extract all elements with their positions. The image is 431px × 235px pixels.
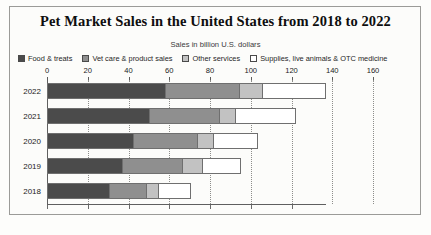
bar-row[interactable]: 2020 xyxy=(47,133,258,149)
y-axis-category-label: 2020 xyxy=(23,137,41,146)
legend-item-label: Other services xyxy=(192,54,240,63)
y-axis-category-label: 2021 xyxy=(23,112,41,121)
x-tick-label: 20 xyxy=(84,66,92,75)
bar-segment[interactable] xyxy=(235,108,296,124)
y-axis-category-label: 2019 xyxy=(23,162,41,171)
x-tick-label: 160 xyxy=(367,66,380,75)
x-axis-bottom-tick xyxy=(169,205,170,209)
legend-swatch-icon xyxy=(250,55,257,62)
bar-segment[interactable] xyxy=(158,183,191,199)
chart-page: Pet Market Sales in the United States fr… xyxy=(0,0,431,235)
bar-row[interactable]: 2021 xyxy=(47,108,296,124)
bar-segment[interactable] xyxy=(182,158,202,174)
gridline xyxy=(373,80,374,204)
x-axis-bottom-tick xyxy=(251,205,252,209)
x-tick-label: 140 xyxy=(326,66,339,75)
x-axis-bottom-tick xyxy=(292,205,293,209)
legend-swatch-icon xyxy=(182,55,189,62)
x-tick-label: 120 xyxy=(285,66,298,75)
x-axis-bottom-tick xyxy=(210,205,211,209)
plot-area: 20222021202020192018 xyxy=(47,80,373,204)
legend-item[interactable]: Supplies, live animals & OTC medicine xyxy=(250,54,387,63)
bar-segment[interactable] xyxy=(202,158,241,174)
x-axis-bottom-tick xyxy=(88,205,89,209)
bar-segment[interactable] xyxy=(47,183,109,199)
x-axis-labels: 020406080100120140160 xyxy=(0,66,431,78)
bar-segment[interactable] xyxy=(239,83,262,99)
legend-swatch-icon xyxy=(82,55,89,62)
bar-segment[interactable] xyxy=(219,108,236,124)
bar-segment[interactable] xyxy=(197,133,214,149)
bar-row[interactable]: 2019 xyxy=(47,158,241,174)
legend-item-label: Vet care & product sales xyxy=(92,54,172,63)
bar-segment[interactable] xyxy=(47,133,133,149)
x-axis-line xyxy=(47,204,326,205)
x-axis-bottom-tick xyxy=(47,205,48,209)
y-axis-category-label: 2022 xyxy=(23,87,41,96)
gridline xyxy=(332,80,333,204)
bar-segment[interactable] xyxy=(133,133,197,149)
bar-segment[interactable] xyxy=(122,158,182,174)
y-axis-category-label: 2018 xyxy=(23,187,41,196)
legend-swatch-icon xyxy=(18,55,25,62)
x-tick-label: 60 xyxy=(165,66,173,75)
legend-item[interactable]: Other services xyxy=(182,54,240,63)
bar-segment[interactable] xyxy=(149,108,219,124)
bar-segment[interactable] xyxy=(262,83,326,99)
bar-segment[interactable] xyxy=(47,83,165,99)
bar-segment[interactable] xyxy=(47,108,149,124)
legend-item-label: Food & treats xyxy=(28,54,72,63)
x-tick-label: 0 xyxy=(45,66,49,75)
chart-legend: Food & treatsVet care & product salesOth… xyxy=(18,53,418,64)
bar-segment[interactable] xyxy=(47,158,122,174)
bar-row[interactable]: 2022 xyxy=(47,83,326,99)
legend-item[interactable]: Food & treats xyxy=(18,54,72,63)
bar-segment[interactable] xyxy=(109,183,146,199)
bar-segment[interactable] xyxy=(213,133,258,149)
x-tick-label: 40 xyxy=(124,66,132,75)
chart-subtitle: Sales in billion U.S. dollars xyxy=(0,40,431,49)
x-tick-label: 80 xyxy=(206,66,214,75)
bar-row[interactable]: 2018 xyxy=(47,183,191,199)
bar-segment[interactable] xyxy=(165,83,238,99)
x-tick-label: 100 xyxy=(244,66,257,75)
chart-title: Pet Market Sales in the United States fr… xyxy=(0,13,431,30)
bar-segment[interactable] xyxy=(146,183,158,199)
x-axis-bottom-tick xyxy=(129,205,130,209)
legend-item[interactable]: Vet care & product sales xyxy=(82,54,172,63)
legend-item-label: Supplies, live animals & OTC medicine xyxy=(260,54,387,63)
